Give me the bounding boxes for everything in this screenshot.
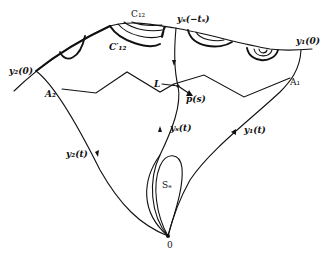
trajectory-inner-left <box>147 155 168 236</box>
label-ys-t: yₛ(t) <box>169 123 191 133</box>
label-c12: C₁₂ <box>131 9 145 19</box>
label-c12-prime: C′₁₂ <box>109 42 126 52</box>
nested-arc-left <box>162 27 165 37</box>
label-se: Sₑ <box>162 180 172 190</box>
label-ys-neg-ts: yₛ(−tₛ) <box>176 14 210 24</box>
label-L: L <box>153 79 160 89</box>
label-y2-0: y₂(0) <box>8 66 33 76</box>
origin-dot <box>166 234 170 238</box>
label-a2: A₂ <box>44 89 56 99</box>
arrow-y2-t <box>95 150 99 157</box>
label-a1: A₁ <box>289 77 300 87</box>
label-ps: p(s) <box>186 94 206 104</box>
label-y2-t: y₂(t) <box>65 149 88 159</box>
arrow-y1-t <box>231 129 236 135</box>
label-origin: 0 <box>167 240 173 250</box>
diagram-canvas: C₁₂ C′₁₂ yₛ(−tₛ) y₁(0) y₂(0) A₂ A₁ L p(s… <box>0 0 324 256</box>
arrow-ys-t <box>158 126 162 132</box>
ps-dot <box>176 84 179 87</box>
boundary-thick-segment <box>36 26 110 71</box>
concentric-inner <box>259 49 267 53</box>
label-y1-0: y₁(0) <box>295 36 320 46</box>
trajectory-y1 <box>168 50 301 236</box>
semicircle-left <box>60 36 85 59</box>
label-y1-t: y₁(t) <box>243 125 266 135</box>
